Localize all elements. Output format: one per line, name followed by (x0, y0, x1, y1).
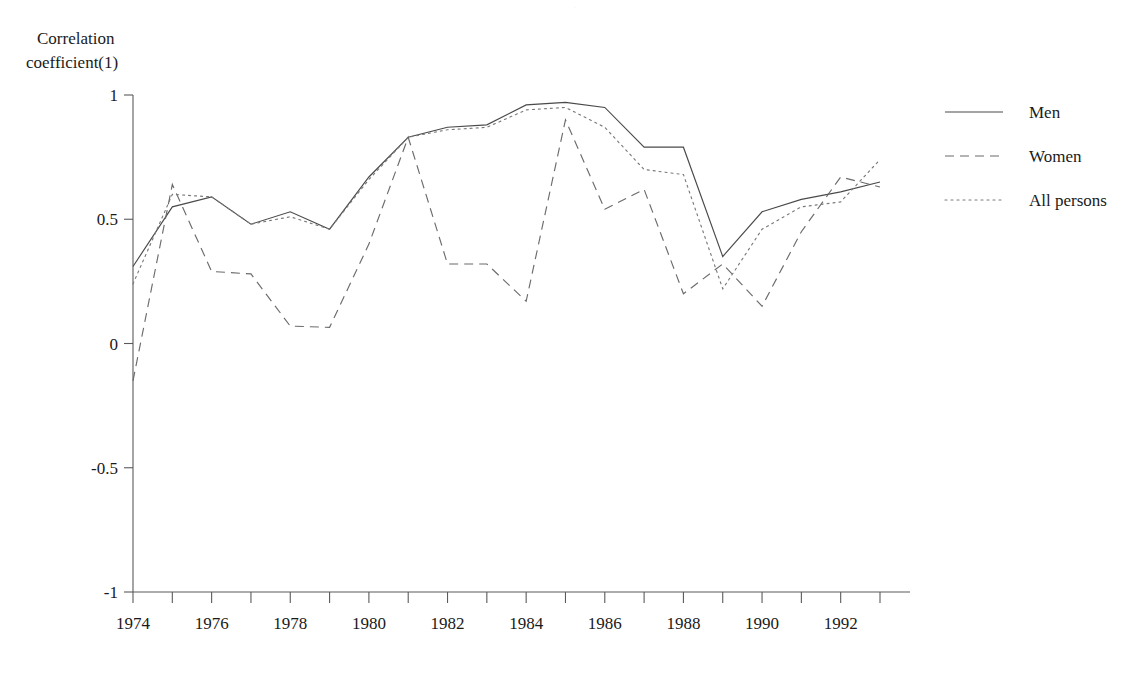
x-tick-label: 1984 (509, 614, 544, 633)
x-tick-label: 1978 (273, 614, 307, 633)
y-axis-ticks: 10.50-0.5-1 (91, 86, 133, 602)
x-tick-label: 1988 (666, 614, 700, 633)
legend-label-women: Women (1029, 147, 1082, 166)
y-axis-label-line-1: Correlation (37, 29, 115, 48)
legend-label-men: Men (1029, 103, 1061, 122)
y-tick-label: -0.5 (91, 459, 118, 478)
x-tick-label: 1990 (745, 614, 779, 633)
y-axis-label-line-2: coefficient(1) (26, 53, 118, 72)
series-line-men (133, 102, 880, 266)
x-axis-ticks (133, 592, 880, 603)
y-tick-label: 0.5 (97, 210, 118, 229)
x-tick-label: 1986 (588, 614, 622, 633)
y-tick-label: -1 (104, 583, 118, 602)
chart-legend: MenWomenAll persons (945, 103, 1107, 210)
x-tick-label: 1992 (824, 614, 858, 633)
correlation-coefficient-line-chart: g Correlation coefficient(1) 10.50-0.5-1… (0, 0, 1144, 673)
cropped-title-remnant: g (0, 0, 1144, 8)
legend-label-all-persons: All persons (1029, 191, 1107, 210)
chart-svg: Correlation coefficient(1) 10.50-0.5-1 1… (0, 0, 1144, 673)
x-axis-tick-labels: 1974197619781980198219841986198819901992 (116, 614, 858, 633)
x-tick-label: 1982 (431, 614, 465, 633)
x-tick-label: 1980 (352, 614, 386, 633)
series-line-women (133, 120, 880, 381)
data-series-layer (133, 102, 880, 380)
y-tick-label: 1 (110, 86, 119, 105)
y-axis-label-group: Correlation coefficient(1) (26, 29, 118, 72)
y-tick-label: 0 (110, 335, 119, 354)
x-tick-label: 1976 (195, 614, 229, 633)
x-tick-label: 1974 (116, 614, 151, 633)
series-line-all-persons (133, 107, 880, 288)
